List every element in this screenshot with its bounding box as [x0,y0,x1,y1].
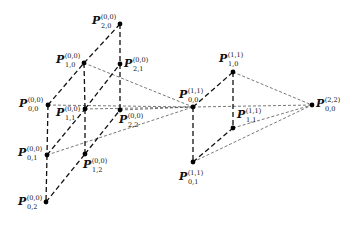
point-label: P(1,1)1,1 [236,107,262,124]
heavy-edge [48,63,84,105]
point-label: P(0,0)0,0 [18,96,44,113]
control-point-dot [118,108,123,113]
point-labels: P(0,0)0,0P(0,0)1,0P(0,0)2,0P(0,0)0,1P(0,… [17,13,341,211]
point-label: P(0,0)2,1 [123,56,149,73]
light-dashed-edges [47,63,312,162]
control-point-dot [46,103,51,108]
point-label: P(1,1)0,1 [178,169,204,186]
heavy-edge [46,155,47,202]
control-point-diagram: P(0,0)0,0P(0,0)1,0P(0,0)2,0P(0,0)0,1P(0,… [0,0,357,226]
control-point-dot [231,126,236,131]
heavy-edge [46,154,85,202]
point-label: P(0,0)1,1 [55,105,81,122]
point-label: P(0,0)1,0 [55,52,81,69]
control-point-dot [191,105,196,110]
control-point-dot [118,62,123,67]
control-point-dot [310,103,315,108]
light-edge [233,72,312,105]
control-point-dot [45,153,50,158]
control-point-dot [83,107,88,112]
point-label: P(0,0)0,2 [17,194,43,211]
point-label: P(0,0)0,1 [17,145,43,162]
control-point-dot [82,61,87,66]
heavy-edge [84,63,85,109]
point-label: P(1,1)1,0 [218,51,244,68]
heavy-edge [193,128,233,162]
control-point-dot [191,160,196,165]
control-point-dot [83,152,88,157]
point-label: P(0,0)1,2 [82,157,108,174]
point-label: P(0,0)2,0 [91,13,117,30]
control-point-dot [44,200,49,205]
heavy-edge [47,105,48,155]
control-point-dot [231,70,236,75]
control-point-dot [118,22,123,27]
point-label: P(2,2)0,0 [315,96,341,113]
heavy-edge [85,110,120,154]
point-label: P(0,0)2,2 [118,112,144,129]
